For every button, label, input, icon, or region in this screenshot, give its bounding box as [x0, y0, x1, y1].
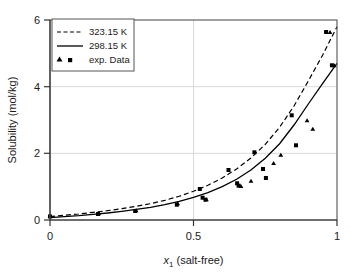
x-axis-title-rest: (salt-free): [173, 254, 223, 266]
x-tick-label-0: 0: [47, 230, 53, 242]
y-tick-label-2: 2: [34, 147, 40, 159]
legend-label-323: 323.15 K: [89, 26, 128, 37]
legend-label-298: 298.15 K: [89, 40, 128, 51]
y-axis-ticks: [44, 20, 50, 220]
solubility-chart: 6 4 2 0 0 0.5 1 Solubility (mol/kg) x1 (…: [0, 0, 360, 274]
y-tick-label-4: 4: [34, 81, 40, 93]
x-axis-title: x1 (salt-free): [162, 254, 223, 269]
x-axis-ticks: [50, 220, 337, 226]
legend-label-exp-data: exp. Data: [89, 54, 130, 65]
chart-figure: 6 4 2 0 0 0.5 1 Solubility (mol/kg) x1 (…: [0, 0, 360, 274]
y-tick-label-6: 6: [34, 14, 40, 26]
y-axis-title: Solubility (mol/kg): [6, 77, 18, 164]
legend: 323.15 K 298.15 K exp. Data: [52, 19, 134, 71]
x-tick-label-0point5: 0.5: [186, 230, 201, 242]
legend-square-marker-icon: [68, 58, 72, 62]
x-tick-label-1: 1: [334, 230, 340, 242]
y-tick-label-0: 0: [34, 214, 40, 226]
